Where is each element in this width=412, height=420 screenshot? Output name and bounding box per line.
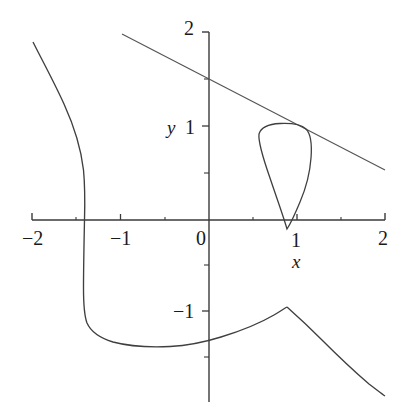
plot-figure: −2 −1 0 1 2 2 1 −1 y x	[0, 0, 412, 420]
y-tick-label-2: 2	[184, 18, 194, 38]
x-tick-label-neg2: −2	[22, 228, 43, 248]
x-tick-label-2: 2	[378, 228, 388, 248]
y-axis-label: y	[167, 118, 175, 137]
plot-canvas	[0, 0, 412, 420]
lower-right-branch-curve	[287, 307, 385, 396]
x-axis-label: x	[292, 252, 300, 271]
closed-loop-curve	[259, 123, 311, 229]
left-branch-curve	[33, 42, 287, 347]
y-tick-label-neg1: −1	[173, 301, 194, 321]
x-tick-label-1: 1	[291, 230, 301, 250]
y-axis	[202, 32, 209, 402]
x-tick-label-0: 0	[196, 228, 206, 248]
x-tick-label-neg1: −1	[110, 228, 131, 248]
y-tick-label-1: 1	[185, 117, 195, 137]
tangent-line-curve	[122, 34, 385, 170]
